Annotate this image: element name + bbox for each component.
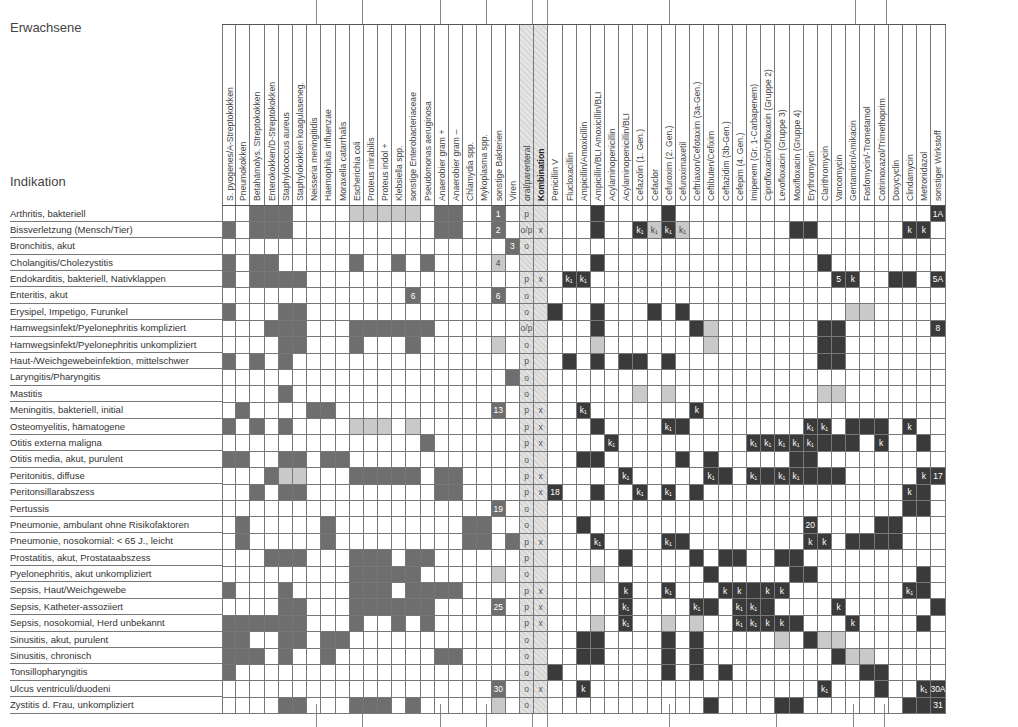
organism-cell (463, 468, 477, 483)
drug-cell (931, 435, 945, 450)
drug-cell (605, 616, 619, 631)
organism-cell (364, 452, 378, 467)
organism-cell: 30 (492, 681, 506, 696)
drug-cell (832, 288, 846, 303)
column-header-label: Metronidazol (918, 152, 930, 201)
column-header: Levofloxacin (Gruppe 3) (775, 25, 789, 205)
route-cell: o (520, 681, 534, 696)
table-row: pxk₁k₁kk (222, 534, 946, 550)
organism-cell (336, 616, 350, 631)
drug-cell (719, 419, 733, 434)
column-header-label: Chlamydia spp. (464, 142, 476, 201)
organism-cell (250, 599, 264, 614)
organism-cell (506, 599, 520, 614)
organism-cell (506, 370, 520, 385)
organism-cell (378, 419, 392, 434)
drug-cell (676, 517, 690, 532)
organism-cell (336, 288, 350, 303)
organism-cell (222, 304, 236, 319)
organism-cell (421, 485, 435, 500)
organism-cell (477, 501, 491, 516)
drug-cell (747, 321, 761, 336)
drug-cell (733, 517, 747, 532)
drug-cell (563, 698, 577, 713)
organism-cell (364, 517, 378, 532)
drug-cell: k₁ (633, 222, 647, 237)
drug-cell (846, 222, 860, 237)
combination-cell (534, 337, 548, 352)
route-cell: o (520, 452, 534, 467)
organism-cell (421, 370, 435, 385)
drug-cell (676, 501, 690, 516)
organism-cell (449, 599, 463, 614)
organism-cell (378, 272, 392, 287)
drug-cell (818, 239, 832, 254)
drug-cell (648, 501, 662, 516)
drug-cell (619, 435, 633, 450)
organism-cell (364, 354, 378, 369)
drug-cell (790, 206, 804, 221)
drug-cell (775, 681, 789, 696)
route-cell: o (520, 370, 534, 385)
drug-cell (690, 534, 704, 549)
organism-cell (449, 370, 463, 385)
organism-cell (492, 321, 506, 336)
organism-cell (449, 567, 463, 582)
organism-cell (392, 255, 406, 270)
organism-cell (406, 206, 420, 221)
drug-cell (804, 386, 818, 401)
drug-cell: k (832, 599, 846, 614)
organism-cell (435, 485, 449, 500)
organism-cell (463, 419, 477, 434)
organism-cell (449, 403, 463, 418)
drug-cell (619, 288, 633, 303)
organism-cell (378, 485, 392, 500)
column-header: Flucloxacillin (563, 25, 577, 205)
organism-cell (350, 517, 364, 532)
drug-cell (577, 321, 591, 336)
drug-cell (577, 649, 591, 664)
drug-cell (860, 370, 874, 385)
organism-cell (336, 239, 350, 254)
drug-cell (563, 452, 577, 467)
organism-cell (250, 632, 264, 647)
organism-cell (279, 452, 293, 467)
indication-label: Pertussis (10, 501, 222, 517)
column-header-label: Ceftazidim (3b-Gen.) (720, 121, 732, 201)
drug-cell: k₁ (676, 222, 690, 237)
table-row: p (222, 550, 946, 566)
organism-cell (378, 681, 392, 696)
drug-cell (605, 468, 619, 483)
drug-cell (832, 632, 846, 647)
drug-cell (747, 304, 761, 319)
drug-cell (633, 435, 647, 450)
drug-cell (860, 321, 874, 336)
organism-cell (293, 419, 307, 434)
organism-cell (449, 681, 463, 696)
drug-cell (676, 616, 690, 631)
organism-cell (265, 206, 279, 221)
column-header-label: Klebsiella spp. (393, 146, 405, 201)
organism-cell (506, 550, 520, 565)
drug-cell (761, 632, 775, 647)
drug-cell (690, 485, 704, 500)
organism-cell (279, 599, 293, 614)
organism-cell (477, 550, 491, 565)
organism-cell (250, 583, 264, 598)
indication-label: Bissverletzung (Mensch/Tier) (10, 222, 222, 238)
drug-cell (676, 632, 690, 647)
organism-cell (321, 616, 335, 631)
drug-cell (633, 632, 647, 647)
organism-cell (293, 206, 307, 221)
drug-cell (818, 632, 832, 647)
organism-cell (250, 698, 264, 713)
drug-cell (733, 272, 747, 287)
drug-cell (903, 255, 917, 270)
organism-cell (350, 321, 364, 336)
drug-cell (548, 403, 562, 418)
column-header: Betahämolys. Streptokokken (250, 25, 264, 205)
drug-cell (577, 419, 591, 434)
drug-cell (577, 239, 591, 254)
organism-cell (265, 485, 279, 500)
organism-cell (236, 206, 250, 221)
